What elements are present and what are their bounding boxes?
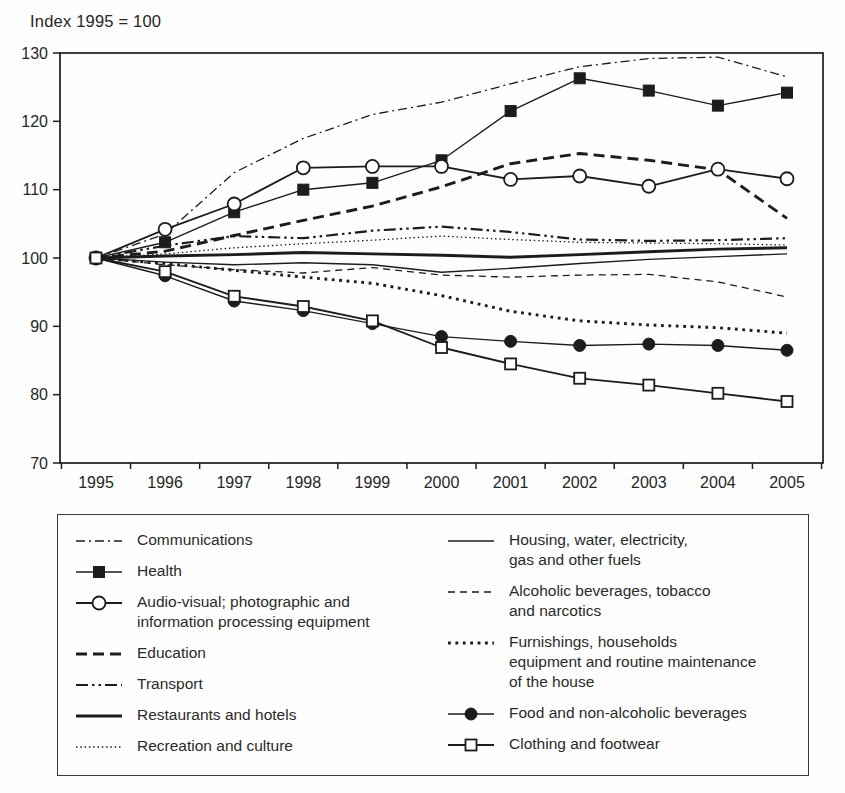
x-axis-label: 2002 [562,474,598,491]
series-clothing-marker [298,301,309,312]
series-health-marker [160,237,171,248]
y-axis-label: 120 [21,113,48,130]
restaurants-line-sample-icon [74,708,124,724]
series-audio-visual-marker [366,160,379,173]
audio-visual-sample-marker [93,597,106,610]
series-audio-visual-marker [297,161,310,174]
x-axis-label: 2004 [700,474,736,491]
y-axis-label: 100 [21,250,48,267]
health-line-sample-icon [74,564,124,580]
series-audio-visual-marker [435,160,448,173]
audio-visual-line-sample-icon [74,595,124,611]
y-axis-label: 80 [30,386,48,403]
series-audio-visual-marker [642,180,655,193]
series-health-marker [505,106,516,117]
series-food-marker [643,338,655,350]
plot-frame [60,53,823,463]
legend-label-recreation: Recreation and culture [137,736,293,756]
food-sample-marker [465,708,477,720]
legend-label-food: Food and non-alcoholic beverages [509,703,747,723]
x-axis-label: 1995 [78,474,114,491]
series-clothing-marker [782,396,793,407]
legend-label-education: Education [137,643,206,663]
series-audio-visual-marker [711,163,724,176]
health-sample-marker [94,567,105,578]
legend-item-furnishings: Furnishings, householdsequipment and rou… [446,632,806,692]
series-clothing-line [96,258,787,402]
clothing-line-sample-icon [446,737,496,753]
series-clothing-marker [436,342,447,353]
series-health-marker [643,85,654,96]
alcoholic-line-sample-icon [446,584,496,600]
legend-label-transport: Transport [137,674,203,694]
legend-item-transport: Transport [74,674,446,694]
communications-line-sample-icon [74,533,124,549]
series-food-marker [781,344,793,356]
y-axis-label: 70 [30,455,48,472]
legend-item-audio-visual: Audio-visual; photographic andinformatio… [74,592,446,632]
legend-label-furnishings: Furnishings, householdsequipment and rou… [509,632,756,692]
x-axis-label: 1998 [286,474,322,491]
series-audio-visual-marker [228,198,241,211]
furnishings-line-sample-icon [446,635,496,651]
line-chart: 7080901001101201301995199619971998199920… [0,0,845,505]
series-food-marker [436,331,448,343]
legend-item-food: Food and non-alcoholic beverages [446,703,806,723]
series-health-marker [298,184,309,195]
food-line-sample-icon [446,706,496,722]
series-food-marker [574,339,586,351]
legend-label-restaurants: Restaurants and hotels [137,705,296,725]
y-axis-label: 110 [22,181,48,198]
x-axis-label: 2001 [493,474,529,491]
page: Index 1995 = 100 70809010011012013019951… [0,0,845,793]
legend-label-audio-visual: Audio-visual; photographic andinformatio… [137,592,370,632]
legend-item-restaurants: Restaurants and hotels [74,705,446,725]
series-clothing-marker [574,373,585,384]
series-clothing-marker [712,388,723,399]
legend: CommunicationsHealthAudio-visual; photog… [57,514,809,776]
legend-column-right: Housing, water, electricity,gas and othe… [446,530,806,775]
series-audio-visual-marker [573,170,586,183]
legend-item-housing: Housing, water, electricity,gas and othe… [446,530,806,570]
series-clothing-marker [367,315,378,326]
legend-item-education: Education [74,643,446,663]
series-clothing-marker [229,291,240,302]
x-axis-label: 1999 [355,474,391,491]
x-axis-label: 2003 [631,474,667,491]
recreation-line-sample-icon [74,739,124,755]
legend-label-health: Health [137,561,182,581]
series-health-marker [574,73,585,84]
series-clothing-marker [505,358,516,369]
transport-line-sample-icon [74,677,124,693]
series-food-marker [505,335,517,347]
legend-item-alcoholic: Alcoholic beverages, tobaccoand narcotic… [446,581,806,621]
x-axis-label: 2000 [424,474,460,491]
series-furnishings-line [96,258,787,333]
series-clothing-marker [91,253,102,264]
series-food-marker [712,339,724,351]
x-axis-label: 2005 [769,474,805,491]
series-clothing-marker [160,266,171,277]
legend-item-recreation: Recreation and culture [74,736,446,756]
series-restaurants-line [96,248,787,258]
legend-label-alcoholic: Alcoholic beverages, tobaccoand narcotic… [509,581,711,621]
x-axis-label: 1996 [147,474,183,491]
clothing-sample-marker [466,740,477,751]
y-axis-label: 90 [30,318,48,335]
legend-item-clothing: Clothing and footwear [446,734,806,754]
education-line-sample-icon [74,646,124,662]
legend-column-left: CommunicationsHealthAudio-visual; photog… [74,530,446,775]
legend-label-clothing: Clothing and footwear [509,734,660,754]
legend-label-housing: Housing, water, electricity,gas and othe… [509,530,688,570]
legend-item-communications: Communications [74,530,446,550]
series-health-marker [367,177,378,188]
housing-line-sample-icon [446,533,496,549]
legend-item-health: Health [74,561,446,581]
legend-label-communications: Communications [137,530,252,550]
series-clothing-marker [643,380,654,391]
series-audio-visual-marker [504,173,517,186]
series-audio-visual-marker [159,223,172,236]
y-axis-label: 130 [21,45,48,62]
series-audio-visual-marker [781,172,794,185]
x-axis-label: 1997 [216,474,252,491]
